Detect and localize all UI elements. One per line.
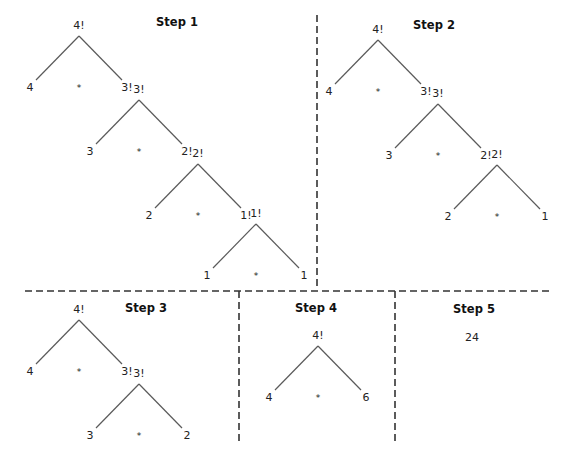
expression-tree: 4!4*6 bbox=[266, 329, 370, 404]
tree-left-edge bbox=[454, 165, 497, 209]
tree-right-node: 1 bbox=[301, 269, 308, 282]
tree-left-edge bbox=[335, 40, 378, 84]
step-panel-3: Step 34!4*3!3!3*2 bbox=[27, 301, 191, 442]
expression-tree: 1!1*1 bbox=[204, 207, 308, 282]
tree-right-edge bbox=[256, 224, 299, 268]
expression-tree: 4!4*3! bbox=[326, 23, 432, 98]
tree-right-edge bbox=[79, 320, 122, 364]
final-result: 24 bbox=[465, 331, 479, 344]
tree-right-edge bbox=[139, 100, 182, 144]
tree-left-edge bbox=[36, 36, 79, 80]
expression-tree: 2!2*1! bbox=[146, 147, 252, 222]
multiply-operator: * bbox=[77, 83, 82, 93]
factorial-recursion-diagram: Step 14!4*3!3!3*2!2!2*1!1!1*1Step 24!4*3… bbox=[0, 0, 574, 472]
tree-right-edge bbox=[438, 104, 481, 148]
tree-right-node: 3! bbox=[121, 365, 132, 378]
tree-right-edge bbox=[198, 164, 241, 208]
tree-right-node: 3! bbox=[121, 81, 132, 94]
panel-dividers bbox=[25, 15, 552, 445]
tree-right-node: 2! bbox=[480, 149, 491, 162]
multiply-operator: * bbox=[376, 87, 381, 97]
step-title: Step 4 bbox=[295, 301, 337, 315]
step-title: Step 2 bbox=[413, 18, 455, 32]
tree-left-edge bbox=[395, 104, 438, 148]
step-panel-2: Step 24!4*3!3!3*2!2!2*1 bbox=[326, 18, 549, 223]
tree-root-node: 4! bbox=[73, 303, 84, 316]
tree-left-node: 3 bbox=[386, 149, 393, 162]
multiply-operator: * bbox=[196, 211, 201, 221]
tree-root-node: 2! bbox=[192, 147, 203, 160]
tree-left-edge bbox=[96, 100, 139, 144]
tree-left-edge bbox=[96, 384, 139, 428]
step-panel-5: Step 524 bbox=[453, 302, 495, 344]
steps-content: Step 14!4*3!3!3*2!2!2*1!1!1*1Step 24!4*3… bbox=[27, 15, 549, 442]
tree-right-edge bbox=[318, 346, 361, 390]
expression-tree: 3!3*2 bbox=[87, 367, 191, 442]
expression-tree: 3!3*2! bbox=[87, 83, 193, 158]
multiply-operator: * bbox=[77, 367, 82, 377]
tree-left-edge bbox=[36, 320, 79, 364]
expression-tree: 2!2*1 bbox=[445, 148, 549, 223]
expression-tree: 3!3*2! bbox=[386, 87, 492, 162]
multiply-operator: * bbox=[137, 431, 142, 441]
tree-left-node: 4 bbox=[27, 81, 34, 94]
tree-left-edge bbox=[155, 164, 198, 208]
tree-root-node: 4! bbox=[372, 23, 383, 36]
step-panel-1: Step 14!4*3!3!3*2!2!2*1!1!1*1 bbox=[27, 15, 308, 282]
tree-left-edge bbox=[275, 346, 318, 390]
tree-left-node: 1 bbox=[204, 269, 211, 282]
tree-left-node: 4 bbox=[266, 391, 273, 404]
multiply-operator: * bbox=[254, 271, 259, 281]
expression-tree: 4!4*3! bbox=[27, 19, 133, 94]
tree-root-node: 3! bbox=[133, 367, 144, 380]
tree-root-node: 1! bbox=[250, 207, 261, 220]
multiply-operator: * bbox=[137, 147, 142, 157]
tree-right-node: 2 bbox=[184, 429, 191, 442]
multiply-operator: * bbox=[316, 393, 321, 403]
tree-left-node: 3 bbox=[87, 429, 94, 442]
step-panel-4: Step 44!4*6 bbox=[266, 301, 370, 404]
tree-left-node: 2 bbox=[445, 210, 452, 223]
tree-right-node: 3! bbox=[420, 85, 431, 98]
tree-root-node: 3! bbox=[432, 87, 443, 100]
tree-root-node: 3! bbox=[133, 83, 144, 96]
expression-tree: 4!4*3! bbox=[27, 303, 133, 378]
tree-right-edge bbox=[497, 165, 540, 209]
tree-root-node: 4! bbox=[312, 329, 323, 342]
tree-left-edge bbox=[213, 224, 256, 268]
tree-right-edge bbox=[79, 36, 122, 80]
tree-left-node: 2 bbox=[146, 209, 153, 222]
multiply-operator: * bbox=[436, 151, 441, 161]
tree-right-node: 2! bbox=[181, 145, 192, 158]
tree-right-node: 1 bbox=[542, 210, 549, 223]
tree-right-edge bbox=[139, 384, 182, 428]
tree-right-node: 6 bbox=[363, 391, 370, 404]
step-title: Step 3 bbox=[125, 301, 167, 315]
tree-root-node: 2! bbox=[491, 148, 502, 161]
step-title: Step 5 bbox=[453, 302, 495, 316]
tree-root-node: 4! bbox=[73, 19, 84, 32]
tree-right-edge bbox=[378, 40, 421, 84]
step-title: Step 1 bbox=[156, 15, 198, 29]
tree-left-node: 4 bbox=[27, 365, 34, 378]
tree-left-node: 4 bbox=[326, 85, 333, 98]
multiply-operator: * bbox=[495, 212, 500, 222]
tree-left-node: 3 bbox=[87, 145, 94, 158]
